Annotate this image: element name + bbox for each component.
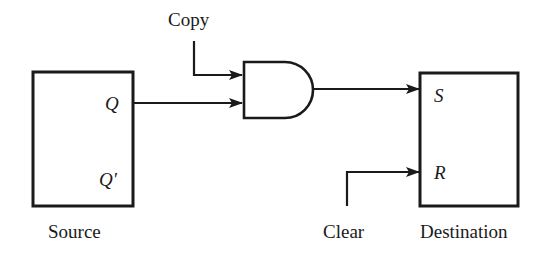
copy-wire (194, 41, 242, 75)
destination-block: S R (420, 73, 518, 206)
source-pin-q: Q (105, 93, 119, 114)
clear-label: Clear (323, 221, 365, 242)
source-label: Source (48, 221, 101, 242)
destination-label: Destination (420, 221, 508, 242)
destination-pin-s: S (434, 85, 444, 106)
destination-pin-r: R (433, 162, 446, 183)
clear-wire (347, 172, 419, 206)
and-gate (244, 62, 313, 118)
copy-label: Copy (168, 9, 210, 30)
circuit-diagram: Q Q' Source Copy S R Destination Clear (0, 0, 548, 253)
source-block: Q Q' (33, 72, 133, 206)
source-pin-q-prime: Q' (99, 169, 118, 190)
